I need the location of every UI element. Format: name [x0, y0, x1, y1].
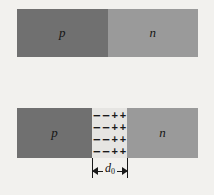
- top-n-region-label: n: [150, 26, 157, 39]
- depletion-region: − − + + − − + + − − + + − − + +: [92, 108, 127, 158]
- arrow-right-icon: [122, 167, 128, 175]
- depletion-width-label: d0: [103, 162, 117, 174]
- negative-charge-icon: −: [93, 145, 100, 158]
- bottom-pn-junction-diagram: p − − + + − − + + − − + + −: [17, 108, 198, 158]
- depletion-width-subscript: 0: [111, 167, 115, 176]
- charge-row: − − + +: [92, 145, 127, 157]
- positive-charge-icon: +: [120, 110, 126, 121]
- figure-canvas: p n p − − + + − − + + − −: [0, 0, 214, 195]
- top-pn-junction-diagram: p n: [17, 9, 198, 57]
- positive-charge-icon: +: [112, 122, 118, 133]
- positive-charge-icon: +: [120, 134, 126, 145]
- top-n-region: n: [108, 9, 199, 57]
- positive-charge-icon: +: [120, 122, 126, 133]
- bottom-n-region: n: [127, 108, 198, 158]
- positive-charge-icon: +: [112, 110, 118, 121]
- bottom-n-region-label: n: [159, 126, 166, 139]
- depletion-width-dimension: d0: [92, 158, 128, 188]
- arrow-left-icon: [92, 167, 98, 175]
- negative-charge-icon: −: [102, 145, 109, 158]
- positive-charge-icon: +: [112, 134, 118, 145]
- bottom-p-region-label: p: [51, 126, 58, 139]
- bottom-p-region: p: [17, 108, 92, 158]
- top-p-region-label: p: [59, 26, 66, 39]
- top-p-region: p: [17, 9, 108, 57]
- positive-charge-icon: +: [120, 146, 126, 157]
- positive-charge-icon: +: [112, 146, 118, 157]
